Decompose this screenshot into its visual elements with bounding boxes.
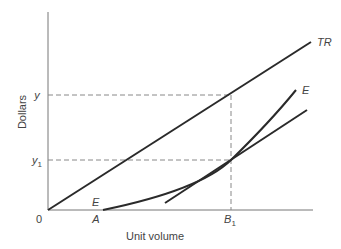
total-revenue-line bbox=[48, 42, 311, 210]
tr-curve-label: TR bbox=[317, 36, 332, 48]
x-axis-label: Unit volume bbox=[126, 230, 184, 242]
origin-label: 0 bbox=[36, 213, 42, 225]
tangent-line bbox=[165, 110, 307, 203]
expense-curve bbox=[103, 90, 296, 210]
a-tick-label: A bbox=[91, 213, 99, 225]
y-tick-label: y bbox=[33, 89, 41, 101]
b1-tick-label: B1 bbox=[224, 213, 236, 228]
y1-tick-label: y1 bbox=[31, 154, 43, 169]
breakeven-diagram: Dollars Unit volume 0 y y1 A B1 TR E E bbox=[0, 0, 341, 249]
e-curve-label: E bbox=[302, 84, 310, 96]
y-axis-label: Dollars bbox=[16, 94, 28, 129]
e-curve-start-label: E bbox=[92, 196, 100, 208]
